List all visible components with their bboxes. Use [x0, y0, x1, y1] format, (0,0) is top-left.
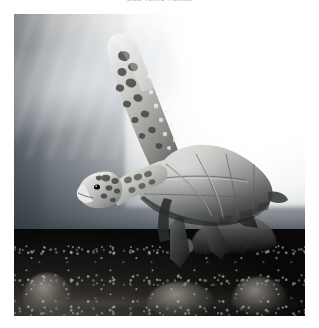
bottom-margin: [0, 316, 319, 328]
turtle-front-flipper-raised: [108, 33, 182, 174]
photo-caption: Sea Turtle Hawaii: [0, 0, 319, 4]
photo-frame: [14, 14, 305, 316]
turtle-tail: [268, 191, 288, 203]
page-root: Sea Turtle Hawaii: [0, 0, 319, 328]
green-sea-turtle: [14, 14, 305, 316]
